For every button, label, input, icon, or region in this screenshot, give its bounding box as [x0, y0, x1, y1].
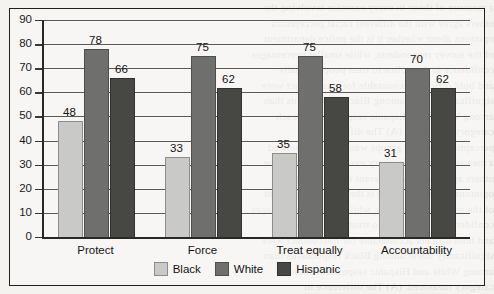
gridline-90	[42, 20, 470, 21]
bar	[272, 153, 297, 239]
y-tick-mark-70	[35, 68, 42, 69]
bar	[298, 56, 323, 239]
y-tick-mark-90	[35, 20, 42, 21]
y-axis-tick-label: 80	[0, 37, 32, 49]
bar-value-label: 48	[56, 106, 84, 118]
bar-value-label: 62	[429, 73, 457, 85]
y-axis-tick-label: 60	[0, 85, 32, 97]
legend-item: Black	[154, 262, 201, 276]
y-axis-tick-label: 40	[0, 134, 32, 146]
x-axis-category-label: Treat equally	[256, 244, 363, 256]
bar	[84, 49, 109, 239]
legend-swatch-icon	[277, 262, 291, 276]
y-axis-tick-label: 70	[0, 61, 32, 73]
x-axis-category-label: Force	[149, 244, 256, 256]
y-tick-mark-0	[35, 237, 42, 238]
bar	[58, 121, 83, 239]
legend-label: Black	[173, 263, 201, 275]
bar	[324, 97, 349, 239]
bar-value-label: 35	[270, 138, 298, 150]
bar-value-label: 75	[296, 41, 324, 53]
bar-value-label: 58	[322, 82, 350, 94]
y-axis-tick-label: 0	[0, 230, 32, 242]
y-axis-tick-label: 20	[0, 182, 32, 194]
chart-legend: BlackWhiteHispanic	[0, 262, 494, 276]
y-tick-mark-10	[35, 213, 42, 214]
chart-figure: a measure of those in every exercise inv…	[0, 0, 494, 294]
bar-value-label: 75	[189, 41, 217, 53]
bar	[217, 88, 242, 239]
bar	[431, 88, 456, 239]
legend-swatch-icon	[154, 262, 168, 276]
legend-label: White	[234, 263, 263, 275]
bar-value-label: 66	[108, 63, 136, 75]
y-axis-tick-label: 30	[0, 158, 32, 170]
y-axis-line	[42, 20, 44, 239]
y-tick-mark-80	[35, 44, 42, 45]
bar-value-label: 70	[403, 53, 431, 65]
x-axis-category-label: Accountability	[363, 244, 470, 256]
bar	[405, 68, 430, 239]
bar-value-label: 62	[215, 73, 243, 85]
bar	[191, 56, 216, 239]
bar	[110, 78, 135, 239]
y-axis-tick-label: 10	[0, 206, 32, 218]
bar-value-label: 33	[163, 142, 191, 154]
y-tick-mark-30	[35, 165, 42, 166]
bar-value-label: 78	[82, 34, 110, 46]
legend-item: White	[215, 262, 263, 276]
y-tick-mark-60	[35, 92, 42, 93]
legend-item: Hispanic	[277, 262, 340, 276]
x-axis-line	[42, 237, 470, 239]
legend-swatch-icon	[215, 262, 229, 276]
bar-value-label: 31	[377, 147, 405, 159]
bar	[379, 162, 404, 239]
y-tick-mark-40	[35, 141, 42, 142]
x-axis-category-label: Protect	[42, 244, 149, 256]
y-tick-mark-50	[35, 116, 42, 117]
bar	[165, 157, 190, 239]
y-axis-tick-label: 90	[0, 13, 32, 25]
y-axis-tick-label: 50	[0, 109, 32, 121]
y-tick-mark-20	[35, 189, 42, 190]
legend-label: Hispanic	[296, 263, 340, 275]
